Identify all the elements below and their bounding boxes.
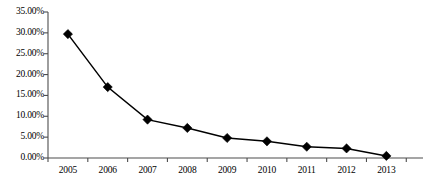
x-axis-tick-label: 2013 [377,166,395,176]
data-point-marker [183,123,192,132]
data-point-marker [223,133,232,142]
x-axis-tick-label: 2012 [337,166,355,176]
x-axis-tick-label: 2010 [258,166,276,176]
x-axis-tick-label: 2007 [138,166,156,176]
x-axis-tick-label: 2006 [99,166,117,176]
data-point-marker [382,151,391,160]
x-axis-tick-label: 2011 [298,166,316,176]
y-axis [44,12,48,158]
x-axis-tick-label: 2009 [218,166,236,176]
x-axis-tick-label: 2008 [178,166,196,176]
data-point-marker [342,144,351,153]
data-point-marker [262,137,271,146]
series-markers [63,30,391,161]
line-chart: 0.00%5.00%10.00%15.00%20.00%25.00%30.00%… [0,0,427,184]
x-axis [48,158,423,162]
data-point-marker [302,142,311,151]
chart-canvas [0,0,427,184]
x-axis-tick-label: 2005 [59,166,77,176]
